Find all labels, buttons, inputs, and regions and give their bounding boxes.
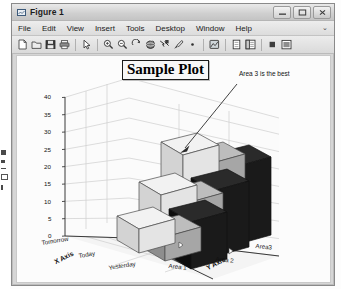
ztick-20: 20: [44, 163, 51, 170]
ytick-area3: Area3: [255, 242, 272, 251]
ztick-25: 25: [44, 146, 51, 153]
ztick-10: 10: [44, 198, 51, 205]
zoom-out-icon[interactable]: [116, 38, 129, 51]
close-button[interactable]: [313, 6, 331, 19]
insert-colorbar-icon[interactable]: [208, 38, 221, 51]
zoom-in-icon[interactable]: [102, 38, 115, 51]
minimize-button[interactable]: [273, 6, 291, 19]
brush-icon[interactable]: [172, 38, 185, 51]
plot-area-3d: 40 35 30 25 20 15 10 5 0 Tomorrow Today …: [17, 56, 330, 282]
ztick-5: 5: [48, 215, 51, 222]
bar-area3-yesterday: [213, 145, 271, 245]
menu-edit[interactable]: Edit: [42, 24, 56, 33]
xtick-yesterday: Yesterday: [108, 260, 136, 271]
rotate-3d-icon[interactable]: [144, 38, 157, 51]
save-figure-icon[interactable]: [44, 38, 57, 51]
page-edge-sliver: [0, 0, 10, 289]
data-cursor-icon[interactable]: [158, 38, 171, 51]
menu-desktop[interactable]: Desktop: [156, 24, 185, 33]
figure-icon: [17, 8, 26, 17]
pan-icon[interactable]: [130, 38, 143, 51]
ztick-35: 35: [44, 111, 51, 118]
ztick-15: 15: [44, 180, 51, 187]
bar3-plot-svg: [17, 56, 330, 282]
menu-insert[interactable]: Insert: [95, 24, 115, 33]
hide-plot-tools-icon[interactable]: [266, 38, 279, 51]
x-axis-label: X Axis: [53, 250, 74, 266]
menu-help[interactable]: Help: [235, 24, 251, 33]
annotation-arrow-line: [185, 84, 237, 148]
bar-area1-today: [139, 173, 197, 241]
link-plot-icon[interactable]: [186, 38, 199, 51]
bar-area2-yesterday: [187, 142, 245, 237]
bar-area3-today: [191, 169, 249, 257]
window-titlebar[interactable]: Figure 1: [12, 4, 334, 21]
bar-area2-tomorrow: [143, 215, 201, 261]
toolbar-separator: [261, 39, 262, 51]
window-title: Figure 1: [30, 7, 64, 17]
page-edge-marks: [1, 150, 9, 240]
window-controls: [273, 6, 331, 19]
screenshot-root: Figure 1 File Edit View Insert Tools Des…: [0, 0, 341, 289]
toolbar: [12, 36, 334, 54]
menu-window[interactable]: Window: [196, 24, 224, 33]
annotation-arrow-head: [180, 146, 190, 154]
menu-file[interactable]: File: [18, 24, 31, 33]
figure-canvas[interactable]: 40 35 30 25 20 15 10 5 0 Tomorrow Today …: [16, 55, 331, 283]
menubar: File Edit View Insert Tools Desktop Wind…: [12, 21, 334, 36]
xtick-tomorrow: Tomorrow: [41, 235, 69, 246]
print-figure-icon[interactable]: [58, 38, 71, 51]
toolbar-separator: [97, 39, 98, 51]
insert-legend-icon[interactable]: [230, 38, 243, 51]
figure-palette-icon[interactable]: [244, 38, 257, 51]
open-file-icon[interactable]: [30, 38, 43, 51]
plot-annotation: Area 3 is the best: [239, 70, 290, 77]
figure-window: Figure 1 File Edit View Insert Tools Des…: [11, 3, 335, 286]
new-figure-icon[interactable]: [16, 38, 29, 51]
bar-area1-yesterday: [161, 133, 219, 229]
menu-overflow-icon[interactable]: ⌄: [322, 24, 328, 32]
toolbar-separator: [203, 39, 204, 51]
plot-title[interactable]: Sample Plot: [122, 60, 209, 80]
toolbar-separator: [75, 39, 76, 51]
edit-plot-arrow-icon[interactable]: [80, 38, 93, 51]
ztick-30: 30: [44, 128, 51, 135]
toolbar-separator: [225, 39, 226, 51]
xtick-today: Today: [78, 249, 95, 258]
maximize-button[interactable]: [293, 6, 311, 19]
bar-area1-tomorrow: [117, 207, 175, 253]
ztick-40: 40: [44, 93, 51, 100]
bar-area2-today: [165, 181, 223, 249]
show-plot-tools-icon[interactable]: [280, 38, 293, 51]
menu-tools[interactable]: Tools: [126, 24, 145, 33]
ytick-area1: Area 1: [168, 262, 187, 271]
menu-view[interactable]: View: [67, 24, 84, 33]
